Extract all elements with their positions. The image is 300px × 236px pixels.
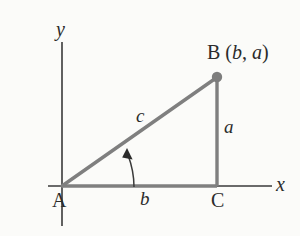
open-paren: (: [225, 41, 232, 63]
y-axis-label: y: [56, 19, 65, 39]
point-b-name: B: [207, 41, 220, 63]
side-label-b: b: [140, 189, 150, 208]
vertex-label-a: A: [52, 190, 66, 210]
coordinate-y: a: [252, 41, 262, 63]
x-axis-label: x: [276, 174, 285, 194]
angle-arrow-head: [122, 148, 132, 159]
side-label-c: c: [136, 106, 144, 125]
triangle-side-c: [62, 78, 216, 186]
diagram-svg: [0, 0, 300, 236]
close-paren: ): [262, 41, 269, 63]
side-label-a: a: [224, 117, 234, 136]
point-b-label: B(b, a): [207, 42, 269, 62]
figure-canvas: y x A C a b c B(b, a): [0, 0, 300, 236]
angle-arc-curve: [128, 155, 134, 187]
coordinate-separator: ,: [242, 41, 252, 63]
coordinate-x: b: [232, 41, 242, 63]
point-b-marker: [212, 72, 222, 82]
vertex-label-c: C: [211, 190, 224, 210]
point-b-coordinates: (b, a): [225, 41, 268, 63]
